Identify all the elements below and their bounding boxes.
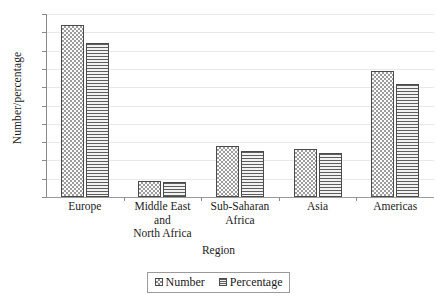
x-tick-label: Asia [279, 200, 357, 241]
x-tick-label: Sub-SaharanAfrica [201, 200, 279, 241]
bar-percentage[interactable] [396, 84, 419, 197]
bar-number[interactable] [294, 149, 317, 197]
legend-swatch-icon [155, 278, 163, 286]
bar-percentage[interactable] [241, 151, 264, 197]
x-tick-label-line: Asia [279, 200, 357, 214]
x-tick-label-line: Sub-Saharan [201, 200, 279, 214]
x-tick-label: Americas [356, 200, 434, 241]
x-tick-label-line: Africa [201, 214, 279, 228]
bar-number[interactable] [371, 71, 394, 197]
plot-inner: 05101520253035404550 [46, 14, 434, 197]
bar-chart: Number/percentage 05101520253035404550 E… [0, 0, 437, 303]
bar-group [279, 14, 357, 197]
x-tick-label-line: Americas [356, 200, 434, 214]
y-axis-title: Number/percentage [11, 18, 23, 178]
x-tick-label-line: North Africa [124, 227, 202, 241]
bar-number[interactable] [61, 25, 84, 197]
legend-label: Percentage [230, 275, 283, 289]
bar-group [124, 14, 202, 197]
x-tick-label-line: Middle East [124, 200, 202, 214]
y-tick-mark [42, 197, 46, 198]
legend-item-percentage[interactable]: Percentage [219, 275, 283, 289]
bar-percentage[interactable] [86, 43, 109, 197]
x-tick-labels: EuropeMiddle EastandNorth AfricaSub-Saha… [46, 200, 434, 241]
x-tick-label-line: Europe [46, 200, 124, 214]
gridline [46, 197, 434, 198]
legend-swatch-icon [219, 278, 227, 286]
legend: NumberPercentage [147, 272, 291, 293]
bar-percentage[interactable] [319, 153, 342, 197]
bar-group [46, 14, 124, 197]
legend-label: Number [166, 275, 205, 289]
bar-number[interactable] [216, 146, 239, 197]
bar-number[interactable] [138, 181, 161, 197]
legend-item-number[interactable]: Number [155, 275, 205, 289]
bar-percentage[interactable] [163, 182, 186, 197]
x-tick-label: Middle EastandNorth Africa [124, 200, 202, 241]
bars-layer [46, 14, 434, 197]
x-tick-label: Europe [46, 200, 124, 241]
x-tick-label-line: and [124, 214, 202, 228]
plot-area: 05101520253035404550 [46, 14, 434, 197]
x-axis-title: Region [0, 244, 437, 256]
bar-group [201, 14, 279, 197]
bar-group [356, 14, 434, 197]
